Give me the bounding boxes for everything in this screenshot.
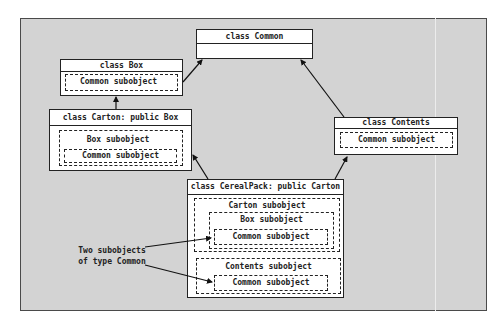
arrow-box-to-common [183,60,202,82]
inheritance-arrows [0,0,503,327]
callout-arrow-2 [145,265,212,282]
arrow-cerealpack-to-carton [193,155,208,179]
arrow-contents-to-common [301,60,344,117]
callout-arrow-1 [145,238,211,247]
arrow-cerealpack-to-contents [335,157,347,179]
